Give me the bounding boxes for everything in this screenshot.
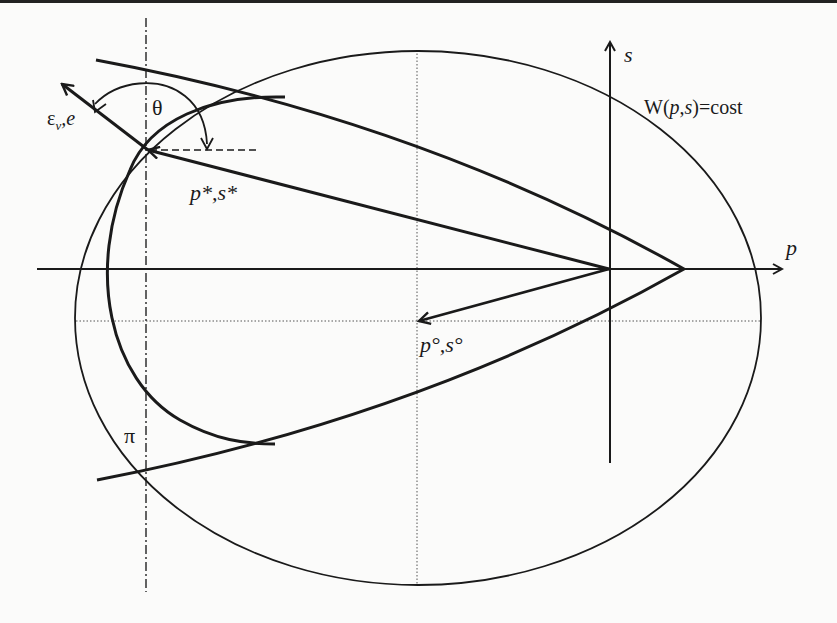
theta-label: θ: [152, 95, 163, 120]
phase-plane-diagram: s p W(p,s)=cost p*,s* p°,s° εν,e θ π: [0, 0, 837, 623]
initial-vector-arrow: [419, 269, 609, 321]
diagram-canvas: s p W(p,s)=cost p*,s* p°,s° εν,e θ π: [0, 0, 837, 623]
eps-label: εν,e: [47, 107, 75, 133]
initial-point-label: p°,s°: [418, 332, 463, 357]
theta-arrowhead-left: [93, 100, 106, 112]
optimal-point-label: p*,s*: [188, 180, 237, 205]
optimal-vector-arrow: [148, 150, 609, 269]
pi-label: π: [124, 423, 135, 448]
level-set-label: W(p,s)=cost: [644, 96, 743, 119]
reachable-circle-arc: [107, 97, 285, 444]
p-axis-label: p: [784, 235, 797, 260]
s-axis-label: s: [624, 42, 633, 67]
level-set-ellipse: [75, 51, 761, 585]
